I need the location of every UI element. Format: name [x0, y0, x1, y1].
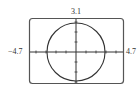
graph-plot [0, 0, 138, 90]
